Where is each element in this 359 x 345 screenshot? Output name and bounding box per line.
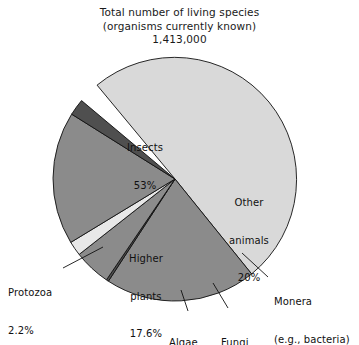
slice-label-protozoa-percent: 2.2%	[8, 325, 78, 338]
slice-label-higher-plants-name-2: plants	[110, 291, 182, 304]
slice-label-algae: Algae 1.9%	[169, 312, 217, 345]
slice-label-monera-detail: (e.g., bacteria)	[274, 334, 359, 345]
slice-label-fungi: Fungi 4.9%	[221, 312, 269, 345]
slice-label-protozoa-name: Protozoa	[8, 287, 78, 300]
slice-label-insects-name: Insects	[110, 142, 180, 155]
slice-label-monera-name: Monera	[274, 296, 359, 309]
slice-label-insects-percent: 53%	[110, 180, 180, 193]
slice-label-higher-plants-name-1: Higher	[110, 253, 182, 266]
pie-chart-figure: Total number of living species (organism…	[0, 0, 359, 345]
slice-label-other-animals-name-1: Other	[211, 197, 287, 210]
slice-label-insects: Insects 53%	[110, 117, 180, 217]
slice-label-algae-name: Algae	[169, 337, 217, 345]
slice-label-monera: Monera (e.g., bacteria) 0.3%	[274, 271, 359, 345]
slice-label-other-animals-name-2: animals	[211, 235, 287, 248]
slice-label-fungi-name: Fungi	[221, 337, 269, 345]
slice-label-protozoa: Protozoa 2.2%	[8, 262, 78, 345]
